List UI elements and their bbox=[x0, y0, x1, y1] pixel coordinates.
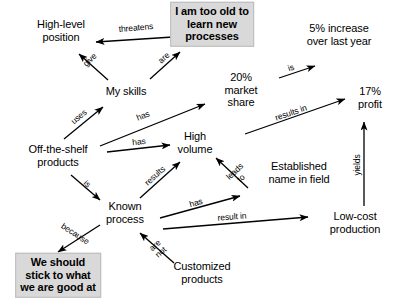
edge-label-e_has_volume: has bbox=[132, 137, 146, 147]
node-established_name[interactable]: Established name in field bbox=[268, 160, 329, 185]
node-known_process[interactable]: Known process bbox=[106, 200, 144, 225]
edge-label-e_yields: yields bbox=[353, 154, 362, 175]
causal-map-canvas: High-level positionI am too old to learn… bbox=[0, 0, 404, 306]
edge-arrow-e_is_increase bbox=[279, 66, 315, 78]
node-high_volume[interactable]: High volume bbox=[178, 130, 213, 155]
node-too_old[interactable]: I am too old to learn new processes bbox=[170, 2, 254, 47]
node-customized_products[interactable]: Customized products bbox=[173, 260, 230, 285]
node-high_level_position[interactable]: High-level position bbox=[37, 18, 85, 43]
node-low_cost_production[interactable]: Low-cost production bbox=[330, 210, 380, 235]
node-off_the_shelf_products[interactable]: Off-the-shelf products bbox=[28, 143, 87, 168]
node-twenty_percent_market_share[interactable]: 20% market share bbox=[224, 71, 257, 109]
edge-arrow-e_threatens bbox=[96, 37, 173, 42]
node-my_skills[interactable]: My skills bbox=[106, 85, 147, 98]
edge-arrow-e_results_in bbox=[245, 99, 345, 134]
node-we_should_stick[interactable]: We should stick to what we are good at bbox=[15, 253, 101, 298]
node-five_percent_increase[interactable]: 5% increase over last year bbox=[307, 22, 372, 47]
node-seventeen_percent_profit[interactable]: 17% profit bbox=[358, 85, 382, 110]
